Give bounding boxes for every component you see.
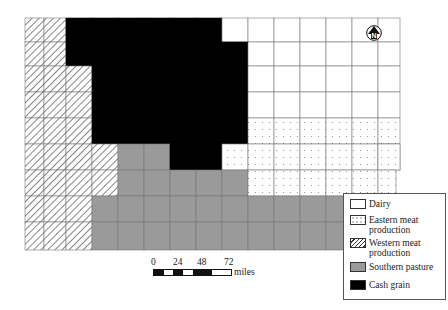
county-western-meat [25, 170, 44, 196]
county-western-meat [92, 144, 118, 170]
county-southern-pasture [144, 196, 170, 222]
county-western-meat [44, 196, 66, 222]
county-cash-grain [144, 118, 170, 144]
scale-tick-24: 24 [173, 257, 183, 267]
county-dairy [248, 18, 274, 42]
county-cash-grain [196, 118, 222, 144]
county-southern-pasture [144, 144, 170, 170]
county-eastern-meat [378, 118, 400, 144]
county-cash-grain [170, 92, 196, 118]
county-western-meat [25, 196, 44, 222]
county-southern-pasture [118, 222, 144, 250]
county-cash-grain [196, 66, 222, 92]
county-western-meat [66, 144, 92, 170]
dairy-swatch [350, 199, 366, 209]
county-dairy [378, 42, 400, 66]
north-arrow: N [366, 25, 382, 41]
county-southern-pasture [118, 144, 144, 170]
county-southern-pasture [274, 196, 300, 222]
county-cash-grain [196, 92, 222, 118]
county-cash-grain [170, 42, 196, 66]
county-dairy [326, 66, 352, 92]
scale-unit: miles [234, 267, 255, 277]
county-western-meat [66, 222, 92, 250]
county-cash-grain [222, 42, 248, 66]
county-cash-grain [170, 118, 196, 144]
legend-label: Eastern meat [369, 215, 418, 225]
county-western-meat [44, 170, 66, 196]
county-dairy [326, 18, 352, 42]
county-cash-grain [196, 18, 222, 42]
county-cash-grain [196, 42, 222, 66]
county-southern-pasture [144, 170, 170, 196]
county-western-meat [92, 170, 118, 196]
county-dairy [326, 42, 352, 66]
legend: Dairy Eastern meat production Western me… [343, 193, 446, 300]
county-western-meat [44, 66, 66, 92]
county-eastern-meat [326, 118, 352, 144]
county-southern-pasture [196, 222, 222, 250]
county-cash-grain [144, 42, 170, 66]
county-dairy [274, 92, 300, 118]
legend-item-eastern-meat: Eastern meat production [350, 215, 418, 235]
county-dairy [222, 18, 248, 42]
county-cash-grain [118, 66, 144, 92]
southern-pasture-swatch [350, 262, 366, 272]
county-dairy [248, 42, 274, 66]
county-southern-pasture [196, 170, 222, 196]
county-western-meat [66, 92, 92, 118]
county-western-meat [44, 92, 66, 118]
county-cash-grain [222, 66, 248, 92]
county-dairy [352, 42, 378, 66]
county-cash-grain [170, 144, 196, 170]
county-western-meat [44, 118, 66, 144]
county-southern-pasture [300, 222, 326, 250]
county-eastern-meat [352, 144, 378, 170]
county-dairy [326, 92, 352, 118]
eastern-meat-swatch [350, 215, 366, 225]
scale-tick-0: 0 [151, 257, 156, 267]
county-cash-grain [222, 92, 248, 118]
county-western-meat [66, 196, 92, 222]
county-western-meat [44, 42, 66, 66]
county-cash-grain [170, 18, 196, 42]
county-eastern-meat [274, 170, 300, 196]
county-eastern-meat [300, 118, 326, 144]
county-southern-pasture [118, 170, 144, 196]
county-dairy [248, 66, 274, 92]
county-cash-grain [118, 92, 144, 118]
county-eastern-meat [352, 118, 378, 144]
county-cash-grain [92, 92, 118, 118]
legend-label-cont: production [350, 225, 410, 235]
county-eastern-meat [222, 144, 248, 170]
county-eastern-meat [300, 170, 326, 196]
legend-item-western-meat: Western meat production [350, 238, 421, 258]
legend-label: Cash grain [369, 280, 410, 290]
county-southern-pasture [248, 196, 274, 222]
county-eastern-meat [248, 170, 274, 196]
county-western-meat [25, 144, 44, 170]
county-western-meat [25, 66, 44, 92]
county-western-meat [66, 66, 92, 92]
county-southern-pasture [92, 196, 118, 222]
county-dairy [378, 66, 400, 92]
county-cash-grain [222, 118, 248, 144]
county-dairy [274, 66, 300, 92]
county-dairy [248, 92, 274, 118]
legend-item-southern-pasture: Southern pasture [350, 262, 433, 272]
county-cash-grain [118, 118, 144, 144]
county-dairy [274, 18, 300, 42]
county-western-meat [44, 18, 66, 42]
county-eastern-meat [300, 144, 326, 170]
county-dairy [300, 66, 326, 92]
county-eastern-meat [248, 118, 274, 144]
county-southern-pasture [144, 222, 170, 250]
county-southern-pasture [222, 196, 248, 222]
legend-label: Western meat [369, 238, 421, 248]
county-cash-grain [92, 118, 118, 144]
county-southern-pasture [222, 170, 248, 196]
county-cash-grain [144, 66, 170, 92]
county-dairy [300, 42, 326, 66]
cash-grain-swatch [350, 280, 366, 290]
legend-label: Dairy [369, 199, 391, 209]
